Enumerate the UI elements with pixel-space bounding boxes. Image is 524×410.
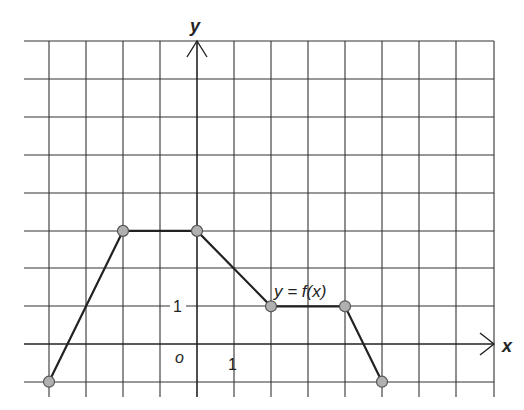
- vertex-point: [118, 225, 129, 236]
- axes: [24, 41, 494, 397]
- function-label: y = f(x): [273, 282, 326, 301]
- vertex-point: [266, 301, 277, 312]
- graph-svg: x y o 1 1 y = f(x): [0, 0, 524, 410]
- vertex-point: [192, 225, 203, 236]
- y-tick-label: 1: [173, 298, 182, 315]
- origin-label: o: [175, 349, 184, 366]
- vertex-point: [377, 376, 388, 387]
- function-graph: x y o 1 1 y = f(x): [0, 0, 524, 410]
- vertex-point: [340, 301, 351, 312]
- y-axis-label: y: [189, 16, 201, 36]
- x-tick-label: 1: [228, 356, 237, 373]
- x-axis-label: x: [501, 336, 513, 356]
- vertex-point: [44, 376, 55, 387]
